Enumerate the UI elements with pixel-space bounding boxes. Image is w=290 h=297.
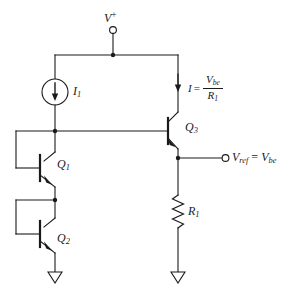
- fraction-numerator: Vbe: [204, 74, 222, 88]
- wire-q2-collector-slope: [44, 218, 55, 227]
- circuit-diagram: V+ I1 I = Vbe R1 Q3 Q1 Q2 R1 Vref=Vbe: [0, 0, 290, 297]
- current-source-subscript: 1: [77, 90, 81, 99]
- supply-label: V+: [104, 11, 117, 24]
- branch-current-expression: I = Vbe R1: [188, 74, 223, 103]
- ground-symbol-right: [171, 272, 185, 283]
- branch-current-arrow-head: [175, 85, 181, 93]
- circuit-schematic-svg: [0, 0, 290, 297]
- current-expression-fraction: Vbe R1: [203, 74, 223, 103]
- fraction-denominator: R1: [206, 89, 221, 103]
- r1-label: R1: [188, 205, 200, 220]
- vref-label: Vref=Vbe: [232, 151, 276, 166]
- vref-subscript: ref: [239, 156, 248, 165]
- vbe-subscript: be: [268, 156, 276, 165]
- q1-label: Q1: [57, 158, 70, 173]
- fraction-numerator-subscript: be: [213, 78, 220, 87]
- resistor-r1-zigzag: [173, 195, 184, 228]
- current-source-label: I1: [73, 85, 81, 100]
- wire-q1-collector-slope: [44, 152, 55, 161]
- supply-terminal-node: [110, 27, 117, 34]
- junction-top-rail: [111, 53, 115, 57]
- current-expression-symbol: I: [188, 82, 192, 94]
- wire-q3-collector-slope: [168, 112, 178, 122]
- vref-terminal-node: [222, 155, 229, 162]
- q1-subscript: 1: [66, 163, 70, 172]
- r1-subscript: 1: [195, 210, 199, 219]
- q2-label: Q2: [57, 232, 70, 247]
- supply-superscript: +: [111, 10, 116, 20]
- fraction-denominator-subscript: 1: [214, 94, 218, 103]
- vref-equals: =: [251, 150, 258, 164]
- current-expression-equals: =: [194, 82, 200, 94]
- q3-subscript: 3: [194, 126, 198, 135]
- q2-subscript: 2: [66, 237, 70, 246]
- ground-symbol-left: [48, 272, 62, 283]
- q3-label: Q3: [185, 121, 198, 136]
